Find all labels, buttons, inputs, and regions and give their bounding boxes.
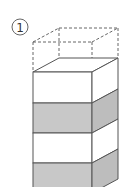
layer-1-front [33, 72, 92, 103]
layer-3-front [33, 133, 92, 163]
stacked-prism-diagram: 1 [0, 0, 138, 187]
layer-2-front [33, 103, 92, 133]
dashed-left-top-edge [33, 28, 59, 42]
figure-number-badge: 1 [12, 19, 28, 35]
figure-number: 1 [16, 21, 24, 35]
layer-4-front [33, 163, 92, 187]
dashed-right-top-edge [92, 28, 118, 42]
